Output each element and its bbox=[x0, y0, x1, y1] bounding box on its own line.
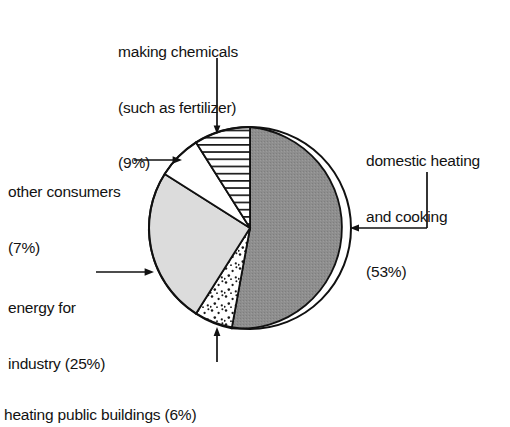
label-making-chemicals-line2: (such as fertilizer) bbox=[118, 99, 238, 118]
label-other-consumers-line2: (7%) bbox=[8, 239, 120, 258]
label-making-chemicals: making chemicals (such as fertilizer) (9… bbox=[118, 6, 238, 210]
label-public-buildings-line1: heating public buildings (6%) bbox=[4, 406, 196, 425]
label-domestic-heating-line3: (53%) bbox=[366, 263, 480, 282]
leader-line-public-buildings bbox=[214, 327, 221, 362]
label-making-chemicals-line1: making chemicals bbox=[118, 43, 238, 62]
label-energy-industry-line1: energy for bbox=[8, 299, 105, 318]
label-other-consumers-line1: other consumers bbox=[8, 183, 120, 202]
label-public-buildings: heating public buildings (6%) bbox=[4, 369, 196, 427]
label-domestic-heating-line2: and cooking bbox=[366, 208, 480, 227]
label-domestic-heating: domestic heating and cooking (53%) bbox=[366, 115, 480, 319]
label-domestic-heating-line1: domestic heating bbox=[366, 152, 480, 171]
label-making-chemicals-line3: (9%) bbox=[118, 154, 238, 173]
